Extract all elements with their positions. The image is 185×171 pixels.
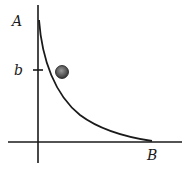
ball [56,66,69,79]
diagram-canvas: A b B [0,0,185,171]
label-b: b [14,62,23,78]
curve [39,20,152,141]
label-B: B [146,147,157,163]
label-A: A [10,13,22,29]
